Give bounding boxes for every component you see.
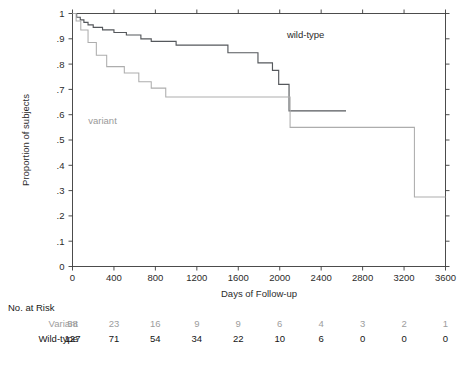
risk-cell: 0 xyxy=(346,333,380,344)
risk-cell: 127 xyxy=(56,333,90,344)
x-tick-label: 3600 xyxy=(435,272,456,283)
risk-cell: 16 xyxy=(138,318,172,329)
y-tick-label: 1 xyxy=(59,8,64,19)
risk-cell: 0 xyxy=(429,333,463,344)
series-label-variant: variant xyxy=(88,115,117,126)
risk-cell: 22 xyxy=(221,333,255,344)
risk-cell: 71 xyxy=(97,333,131,344)
y-axis-ticks: 0.1.2.3.4.5.6.7.8.91 xyxy=(57,8,450,272)
risk-cell: 2 xyxy=(387,318,421,329)
x-tick-label: 2000 xyxy=(269,272,290,283)
risk-cell: 34 xyxy=(180,333,214,344)
risk-cell: 10 xyxy=(263,333,297,344)
x-tick-label: 2800 xyxy=(352,272,373,283)
y-tick-label: .6 xyxy=(57,109,65,120)
risk-cell: 23 xyxy=(97,318,131,329)
y-tick-label: .3 xyxy=(57,185,65,196)
risk-cell: 9 xyxy=(180,318,214,329)
risk-cell: 9 xyxy=(221,318,255,329)
x-tick-label: 0 xyxy=(70,272,75,283)
curve-variant xyxy=(73,14,446,197)
y-tick-label: .8 xyxy=(57,59,65,70)
plot-frame xyxy=(73,14,446,267)
y-tick-label: .5 xyxy=(57,134,65,145)
risk-table-title: No. at Risk xyxy=(8,302,54,313)
x-tick-label: 3200 xyxy=(393,272,414,283)
y-axis-title: Proportion of subjects xyxy=(20,94,31,186)
x-tick-label: 2400 xyxy=(311,272,332,283)
risk-cell: 58 xyxy=(56,318,90,329)
risk-cell: 1 xyxy=(429,318,463,329)
y-tick-label: .4 xyxy=(57,160,65,171)
risk-cell: 6 xyxy=(304,333,338,344)
risk-cell: 4 xyxy=(304,318,338,329)
y-tick-label: .2 xyxy=(57,210,65,221)
risk-cell: 0 xyxy=(387,333,421,344)
x-tick-label: 800 xyxy=(147,272,163,283)
number-at-risk-table: No. at Risk Variant 5823169964321 Wild-t… xyxy=(0,300,465,366)
x-tick-label: 1600 xyxy=(228,272,249,283)
risk-cell: 6 xyxy=(263,318,297,329)
y-tick-label: .1 xyxy=(57,236,65,247)
risk-cell: 54 xyxy=(138,333,172,344)
survival-curves xyxy=(73,14,446,197)
km-survival-figure: 04008001200160020002400280032003600 0.1.… xyxy=(0,0,465,366)
x-axis-ticks: 04008001200160020002400280032003600 xyxy=(70,10,456,283)
risk-row-wild-type: Wild-type 12771543422106000 xyxy=(0,333,465,348)
x-tick-label: 400 xyxy=(106,272,122,283)
x-axis-title: Days of Follow-up xyxy=(221,288,297,299)
y-tick-label: 0 xyxy=(59,261,64,272)
series-label-wild-type: wild-type xyxy=(286,29,325,40)
plot-border xyxy=(73,14,446,267)
risk-cell: 3 xyxy=(346,318,380,329)
survival-plot: 04008001200160020002400280032003600 0.1.… xyxy=(0,0,465,300)
y-tick-label: .7 xyxy=(57,84,65,95)
y-tick-label: .9 xyxy=(57,33,65,44)
x-tick-label: 1200 xyxy=(186,272,207,283)
risk-row-variant: Variant 5823169964321 xyxy=(0,318,465,333)
